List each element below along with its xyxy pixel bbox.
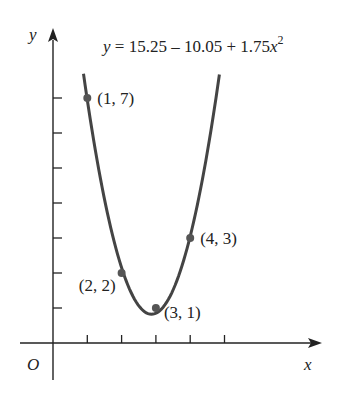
y-axis-label: y <box>27 25 37 44</box>
data-point-label: (3, 1) <box>164 303 201 322</box>
equation-exponent: 2 <box>278 33 284 47</box>
x-axis-label: x <box>303 355 312 374</box>
axes <box>20 28 322 380</box>
chart-figure: y x O y = 15.25 – 10.05 + 1.75x2 (1, 7)(… <box>0 0 361 402</box>
y-axis-arrow-icon <box>48 28 58 42</box>
data-point-label: (1, 7) <box>97 89 134 108</box>
equation-body: = 15.25 – 10.05 + 1.75 <box>111 37 270 56</box>
data-point-label: (4, 3) <box>200 229 237 248</box>
data-point <box>118 269 126 277</box>
equation-label: y = 15.25 – 10.05 + 1.75x2 <box>101 33 284 56</box>
data-point <box>152 304 160 312</box>
origin-label: O <box>27 355 39 374</box>
x-ticks <box>87 335 224 343</box>
data-point <box>83 94 91 102</box>
data-point <box>186 234 194 242</box>
data-point-label: (2, 2) <box>79 276 116 295</box>
y-ticks <box>53 98 62 308</box>
